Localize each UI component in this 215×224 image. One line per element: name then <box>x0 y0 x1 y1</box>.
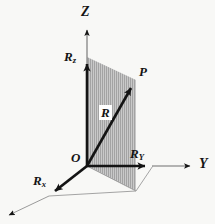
axis-z-label: Z <box>81 5 90 19</box>
point-p-label: P <box>139 65 147 78</box>
component-rz-label: Rz <box>64 50 76 64</box>
component-ry-label: RY <box>130 147 144 161</box>
axis-y-label: Y <box>199 157 208 171</box>
axis-x-line <box>9 196 49 215</box>
base-line-front <box>49 191 136 196</box>
vector-rx <box>55 166 87 191</box>
vector-diagram-figure: Z Rz P R O RY Y Rx <box>0 0 215 224</box>
origin-label: O <box>71 151 80 164</box>
base-line-right <box>136 167 153 192</box>
component-rx-label: Rx <box>33 174 46 188</box>
vector-r-label: R <box>99 105 112 120</box>
